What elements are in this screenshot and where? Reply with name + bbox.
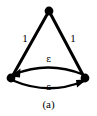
edge-label-left-weight: 1 [19,33,31,44]
edge-label-right-weight: 1 [67,33,79,44]
node-bottom-right [81,74,90,83]
edge-label-upper-epsilon: ε [42,55,55,64]
edge-label-lower-epsilon: ε [42,83,55,92]
figure-container: 1 1 ε ε (a) [0,0,97,116]
figure-caption: (a) [0,99,97,110]
node-bottom-left [7,74,16,83]
edge-upper-arc [14,68,83,75]
node-top [45,7,54,16]
